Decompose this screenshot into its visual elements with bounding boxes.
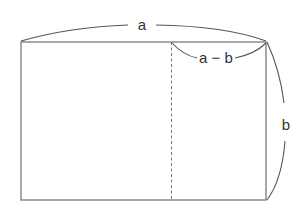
label-a: a [138,16,147,33]
brace-a-minus-b-left [172,43,197,58]
brace-b-top [267,42,284,103]
brace-b-bottom [267,141,285,200]
brace-a-left [21,25,128,41]
label-a-minus-b: a − b [199,49,233,66]
brace-a-minus-b-right [235,43,266,58]
label-b: b [282,116,290,133]
brace-a-right [156,25,266,41]
diagram-canvas: a a − b b [0,0,308,214]
